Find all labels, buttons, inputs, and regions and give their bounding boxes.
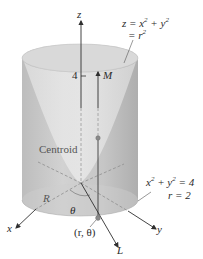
cylinder-paraboloid-diagram: [0, 0, 203, 259]
centroid-point: [96, 136, 100, 140]
angle-theta-label: θ: [70, 205, 75, 216]
z-axis-label: z: [77, 9, 81, 20]
x-axis-label: x: [7, 223, 12, 234]
y-axis-label: y: [157, 224, 162, 235]
circle-equation-line2: r = 2: [168, 190, 191, 201]
circle-equation-line1: x2 + y2 = 4: [146, 177, 194, 188]
x-axis: [16, 209, 36, 228]
circle-leader: [138, 192, 151, 201]
region-r-label: R: [43, 193, 50, 204]
cylinder-top-rim: [22, 44, 138, 72]
z-tick-4-label: 4: [72, 70, 78, 81]
y-axis: [128, 211, 156, 229]
point-r-theta-label: (r, θ): [74, 227, 95, 238]
centroid-label: Centroid: [39, 144, 78, 155]
paraboloid-equation-line2: = r2: [128, 30, 146, 41]
point-r-theta: [96, 216, 101, 221]
moment-arrow-label: M: [103, 70, 112, 81]
line-l-label: L: [117, 245, 123, 256]
